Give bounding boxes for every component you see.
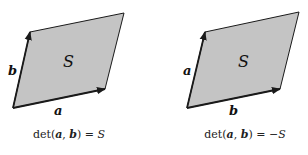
formula-rhs: S: [98, 128, 106, 141]
right-vector-horizontal-label: b: [229, 103, 238, 118]
formula-rhs: −S: [269, 128, 286, 141]
right-vector-vertical-label: a: [183, 63, 191, 78]
formula-prefix: det(: [204, 128, 226, 141]
formula-vector-2: b: [69, 128, 77, 141]
right-determinant-formula: det(a, b) = −S: [204, 128, 285, 141]
right-area-label: S: [238, 52, 249, 71]
left-determinant-formula: det(a, b) = S: [33, 128, 105, 141]
formula-suffix: ) =: [248, 128, 269, 141]
formula-prefix: det(: [33, 128, 55, 141]
formula-suffix: ) =: [77, 128, 98, 141]
left-parallelogram-group: S a b: [8, 13, 124, 118]
left-vector-vertical-label: b: [8, 63, 17, 78]
left-area-label: S: [63, 52, 74, 71]
left-vector-horizontal-label: a: [54, 103, 62, 118]
formula-vector-2: b: [241, 128, 249, 141]
right-parallelogram-group: S b a: [183, 12, 299, 118]
